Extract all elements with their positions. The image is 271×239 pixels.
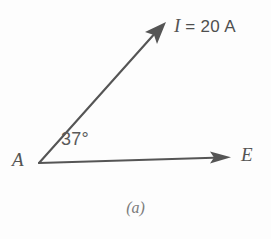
- vector-label-i-value: = 20 A: [185, 18, 235, 35]
- angle-label-37-deg: 37°: [61, 130, 89, 148]
- vector-i-shaft: [39, 31, 157, 163]
- vector-label-i-symbol: I: [174, 16, 180, 35]
- figure-caption: (a): [0, 200, 271, 216]
- vector-e-shaft: [39, 158, 222, 164]
- vector-i-group: [39, 22, 166, 163]
- vector-label-i: I = 20 A: [174, 16, 236, 35]
- vector-label-e: E: [241, 145, 253, 164]
- vector-e-group: [39, 152, 231, 164]
- vertex-label-a: A: [12, 150, 24, 169]
- figure-container: A E I = 20 A 37° (a): [0, 0, 271, 239]
